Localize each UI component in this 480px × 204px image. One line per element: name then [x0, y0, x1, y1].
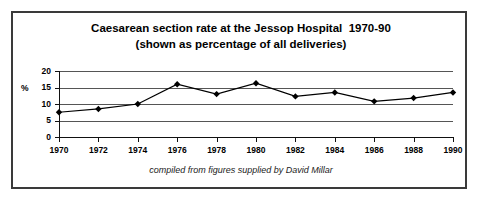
data-point-1970	[56, 109, 62, 115]
data-point-1976	[174, 81, 180, 87]
data-point-1990	[450, 89, 456, 95]
series-line	[59, 83, 453, 112]
data-point-1980	[253, 80, 259, 86]
data-point-1984	[332, 89, 338, 95]
data-point-1986	[371, 98, 377, 104]
data-point-1974	[135, 101, 141, 107]
data-point-1982	[292, 93, 298, 99]
chart-caption: compiled from figures supplied by David …	[13, 165, 469, 175]
series-markers	[56, 80, 456, 115]
data-point-1988	[410, 95, 416, 101]
data-point-1972	[95, 106, 101, 112]
chart-figure: Caesarean section rate at the Jessop Hos…	[0, 0, 480, 204]
chart-frame: Caesarean section rate at the Jessop Hos…	[11, 11, 467, 189]
data-point-1978	[213, 91, 219, 97]
